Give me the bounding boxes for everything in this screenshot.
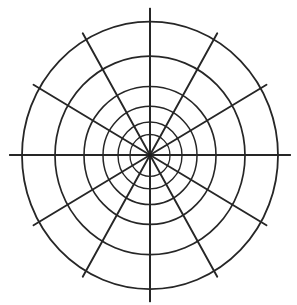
polar-grid-canvas xyxy=(0,0,297,305)
polar-center-point xyxy=(148,153,152,157)
polar-grid-figure xyxy=(0,0,297,305)
